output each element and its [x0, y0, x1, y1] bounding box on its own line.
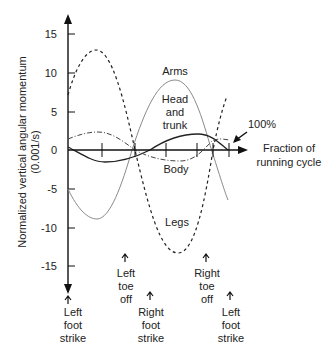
- y-tick-labels: 15 10 5 0 -5 -10 -15: [41, 28, 57, 272]
- svg-text:and: and: [166, 106, 184, 118]
- end-marker-label: 100%: [248, 118, 276, 130]
- y-axis-arrow-down: [64, 284, 72, 294]
- series-head-trunk: [68, 134, 228, 162]
- svg-text:foot: foot: [142, 319, 160, 331]
- x-axis-arrow: [238, 146, 248, 154]
- svg-text:5: 5: [51, 106, 57, 118]
- label-body: Body: [163, 163, 189, 175]
- svg-text:Right: Right: [138, 306, 164, 318]
- label-arms: Arms: [162, 65, 188, 77]
- y-axis-arrow-up: [64, 14, 72, 24]
- svg-text:15: 15: [45, 28, 57, 40]
- svg-text:Fraction of: Fraction of: [263, 142, 316, 154]
- svg-text:strike: strike: [218, 332, 244, 344]
- event-left-foot-strike-end: Left foot strike: [218, 292, 244, 344]
- event-left-toe-off: Left toe off: [117, 254, 135, 305]
- svg-text:strike: strike: [60, 332, 86, 344]
- svg-text:strike: strike: [138, 332, 164, 344]
- svg-text:Left: Left: [117, 267, 135, 279]
- event-right-toe-off: Right toe off: [194, 254, 220, 305]
- svg-text:0: 0: [51, 144, 57, 156]
- svg-text:-10: -10: [41, 222, 57, 234]
- svg-text:(0.001/s): (0.001/s): [29, 130, 41, 173]
- svg-text:foot: foot: [64, 319, 82, 331]
- label-legs: Legs: [165, 216, 189, 228]
- svg-text:off: off: [120, 293, 133, 305]
- event-left-foot-strike-start: Left foot strike: [60, 296, 86, 344]
- svg-text:foot: foot: [222, 319, 240, 331]
- label-head-trunk: Head and trunk: [162, 93, 188, 131]
- svg-text:trunk: trunk: [163, 119, 188, 131]
- svg-text:-5: -5: [47, 183, 57, 195]
- svg-text:Left: Left: [222, 306, 240, 318]
- svg-text:10: 10: [45, 67, 57, 79]
- y-axis-label: Normalized vertical angular momentum (0.…: [16, 56, 41, 247]
- series-body: [68, 132, 229, 161]
- svg-text:Normalized vertical angular mo: Normalized vertical angular momentum: [16, 56, 28, 247]
- svg-text:running cycle: running cycle: [257, 156, 322, 168]
- svg-text:off: off: [201, 293, 214, 305]
- svg-text:Right: Right: [194, 267, 220, 279]
- end-marker-arrowhead: [233, 135, 241, 143]
- svg-text:toe: toe: [118, 280, 133, 292]
- angular-momentum-chart: Normalized vertical angular momentum (0.…: [0, 0, 328, 350]
- svg-text:Left: Left: [64, 306, 82, 318]
- svg-text:Head: Head: [162, 93, 188, 105]
- svg-text:-15: -15: [41, 260, 57, 272]
- event-right-foot-strike: Right foot strike: [138, 292, 164, 344]
- x-axis-label: Fraction of running cycle: [257, 142, 322, 168]
- svg-text:toe: toe: [199, 280, 214, 292]
